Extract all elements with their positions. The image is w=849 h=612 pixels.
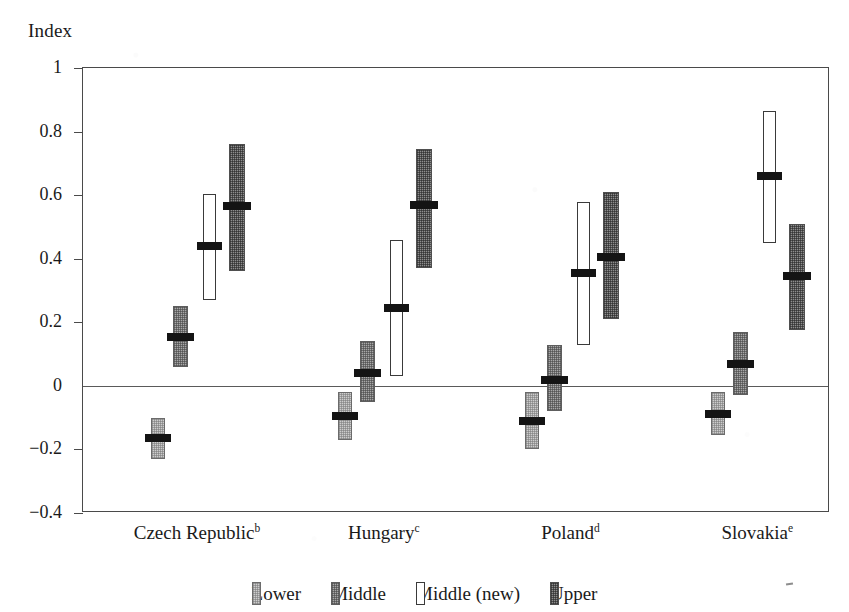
y-axis-tick <box>74 195 83 196</box>
y-axis-tick-labels: 10.80.60.40.20−0.2−0.4 <box>0 67 74 512</box>
chart-legend: LowerMiddleMiddle (new)Upper <box>0 574 849 612</box>
y-axis-title: Index <box>28 20 72 42</box>
plot-area <box>83 68 828 511</box>
y-axis-tick-label: −0.4 <box>29 502 62 523</box>
y-axis-tick-label: 0.6 <box>40 184 63 205</box>
y-axis-tick-label: 1 <box>53 57 62 78</box>
value-marker-upper <box>410 201 438 209</box>
x-axis-label-hungary: Hungaryc <box>348 522 420 544</box>
x-axis-label-footnote: e <box>788 522 793 534</box>
x-axis-label-text: Czech Republic <box>134 522 255 543</box>
value-marker-middlenew <box>571 269 596 277</box>
value-marker-upper <box>597 253 625 261</box>
value-marker-middlenew <box>384 304 409 312</box>
value-marker-lower <box>519 417 545 425</box>
x-axis-category-labels: Czech RepublicbHungarycPolanddSlovakiae <box>82 518 829 554</box>
value-marker-lower <box>332 412 358 420</box>
y-axis-tick-label: 0.4 <box>40 247 63 268</box>
x-axis-label-footnote: b <box>255 522 261 534</box>
y-axis-tick <box>74 259 83 260</box>
y-axis-tick <box>74 68 83 69</box>
value-marker-middle <box>167 333 194 341</box>
legend-item-middle[interactable]: Middle <box>331 584 386 603</box>
y-axis-tick-label: 0.2 <box>40 311 63 332</box>
value-marker-middle <box>354 369 381 377</box>
zero-line <box>83 386 828 387</box>
y-axis-tick <box>74 322 83 323</box>
value-marker-middle <box>541 376 568 384</box>
value-marker-lower <box>145 434 171 442</box>
x-axis-label-text: Hungary <box>348 522 414 543</box>
value-marker-middlenew <box>197 242 222 250</box>
value-marker-upper <box>223 202 251 210</box>
x-axis-label-czech-republic: Czech Republicb <box>134 522 261 544</box>
legend-swatch-lower <box>252 582 261 605</box>
value-marker-upper <box>783 272 811 280</box>
x-axis-label-footnote: c <box>414 522 419 534</box>
x-axis-label-slovakia: Slovakiae <box>721 522 793 544</box>
y-axis-tick <box>74 132 83 133</box>
legend-swatch-middlenew <box>416 582 425 605</box>
legend-item-lower[interactable]: Lower <box>252 584 302 603</box>
value-marker-lower <box>705 410 731 418</box>
legend-item-middlenew[interactable]: Middle (new) <box>416 584 520 603</box>
value-marker-middle <box>727 360 754 368</box>
value-marker-middlenew <box>757 172 782 180</box>
legend-swatch-upper <box>550 582 559 605</box>
legend-item-upper[interactable]: Upper <box>550 584 597 603</box>
y-axis-tick-label: 0.8 <box>40 120 63 141</box>
y-axis-tick-label: −0.2 <box>29 438 62 459</box>
legend-swatch-middle <box>331 582 340 605</box>
y-axis-tick <box>74 513 83 514</box>
x-axis-label-poland: Polandd <box>541 522 600 544</box>
x-axis-label-footnote: d <box>594 522 600 534</box>
legend-label: Middle (new) <box>416 584 520 603</box>
y-axis-tick <box>74 449 83 450</box>
x-axis-label-text: Poland <box>541 522 594 543</box>
x-axis-label-text: Slovakia <box>721 522 788 543</box>
y-axis-tick-label: 0 <box>53 374 62 395</box>
plot-frame <box>82 67 829 512</box>
